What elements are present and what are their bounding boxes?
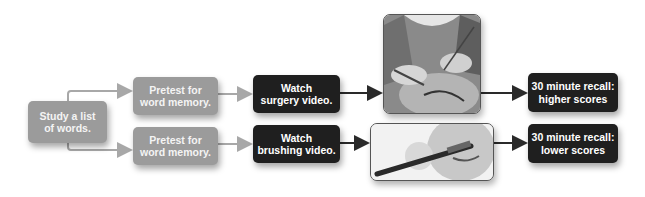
pretest-top-line2: word memory.: [140, 96, 211, 109]
watch-bottom-line2: brushing video.: [257, 144, 335, 157]
recall-bottom-line1: 30 minute recall:: [532, 131, 615, 144]
watch-bottom-line1: Watch: [281, 132, 312, 145]
watch-top-line1: Watch: [281, 82, 312, 95]
surgery-photo: [383, 14, 481, 114]
recall-top-line2: higher scores: [539, 93, 608, 106]
pretest-box-bottom: Pretest for word memory.: [133, 127, 218, 165]
pretest-bottom-line2: word memory.: [140, 146, 211, 159]
pretest-bottom-line1: Pretest for: [149, 134, 202, 147]
pretest-top-line1: Pretest for: [149, 84, 202, 97]
start-box: Study a list of words.: [28, 101, 107, 143]
watch-top-line2: surgery video.: [261, 94, 333, 107]
start-line2: of words.: [44, 122, 91, 135]
recall-bottom-line2: lower scores: [541, 144, 605, 157]
toothbrushing-photo: [370, 123, 494, 181]
watch-brushing-box: Watch brushing video.: [253, 125, 340, 163]
pretest-box-top: Pretest for word memory.: [133, 77, 218, 115]
start-line1: Study a list: [39, 110, 95, 123]
watch-surgery-box: Watch surgery video.: [253, 75, 340, 113]
recall-lower-box: 30 minute recall: lower scores: [528, 124, 618, 163]
recall-top-line1: 30 minute recall:: [532, 80, 615, 93]
recall-higher-box: 30 minute recall: higher scores: [528, 73, 618, 112]
